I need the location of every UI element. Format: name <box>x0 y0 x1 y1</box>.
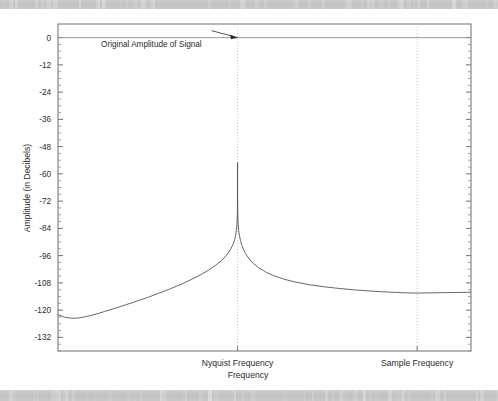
y-tick-label: -84 <box>39 224 51 233</box>
y-axis-ticks <box>58 38 471 338</box>
y-tick-label: -12 <box>39 61 51 70</box>
y-tick-label: -72 <box>39 197 51 206</box>
y-tick-label: -120 <box>35 306 52 315</box>
plot-frame <box>58 24 471 351</box>
annotation-original-amplitude: Original Amplitude of Signal <box>101 31 237 49</box>
annotation-arrow-head <box>230 34 238 39</box>
y-tick-label: -108 <box>35 279 52 288</box>
chart-plot: Original Amplitude of Signal 0-12-24-36-… <box>0 0 498 401</box>
data-series-line <box>58 163 471 319</box>
figure-canvas: Original Amplitude of Signal 0-12-24-36-… <box>0 0 498 401</box>
x-category-label: Nyquist Frequency <box>202 358 274 368</box>
y-tick-label: -48 <box>39 143 51 152</box>
x-axis-ticks <box>238 346 418 351</box>
annotation-label: Original Amplitude of Signal <box>101 40 202 49</box>
x-category-label: Sample Frequency <box>381 358 454 368</box>
y-tick-label: -132 <box>35 333 52 342</box>
y-tick-label: -60 <box>39 170 51 179</box>
reference-lines <box>58 24 471 351</box>
y-tick-label: -36 <box>39 115 51 124</box>
y-axis-minor-ticks <box>58 44 471 351</box>
y-axis-tick-labels: 0-12-24-36-48-60-72-84-96-108-120-132 <box>35 34 52 343</box>
y-tick-label: -96 <box>39 252 51 261</box>
x-axis-title: Frequency <box>228 370 269 380</box>
y-axis-title: Amplitude (in Decibels) <box>22 144 32 232</box>
y-tick-label: -24 <box>39 88 51 97</box>
x-axis-category-labels: Nyquist FrequencySample Frequency <box>202 358 454 368</box>
y-tick-label: 0 <box>46 34 51 43</box>
